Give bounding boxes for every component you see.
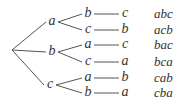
edge-level1-to-level2 [58,45,82,52]
permutation-result: abc [154,7,173,20]
edge-level1-to-level2 [56,85,82,93]
tree-node-level2: a [85,70,92,84]
tree-node-level2: c [85,54,91,68]
tree-node-level3: a [122,85,129,99]
permutation-result: acb [154,23,173,36]
tree-node-level1: a [49,14,56,28]
tree-node-level1: c [47,77,53,91]
tree-node-level3: b [122,22,129,36]
permutation-result: bca [154,55,173,68]
tree-node-level3: a [122,54,129,68]
edge-root-to-level1 [12,50,46,52]
permutation-result: bac [154,38,173,51]
tree-node-level2: b [85,85,92,99]
edge-level1-to-level2 [58,22,82,30]
edge-root-to-level1 [12,50,44,85]
tree-node-level2: c [85,22,91,36]
edge-level1-to-level2 [58,14,82,22]
edge-level1-to-level2 [56,78,82,85]
tree-node-level2: b [85,6,92,20]
tree-node-level2: a [85,37,92,51]
edge-root-to-level1 [12,22,46,50]
tree-node-level3: c [122,6,128,20]
tree-node-level3: c [122,37,128,51]
permutation-tree-diagram: abcbcabccbacbacbaccabcaabcabbacba [0,0,182,104]
permutation-result: cba [154,86,173,99]
tree-node-level1: b [49,44,56,58]
edge-level1-to-level2 [58,52,82,62]
tree-node-level3: b [122,70,129,84]
permutation-result: cab [154,71,173,84]
